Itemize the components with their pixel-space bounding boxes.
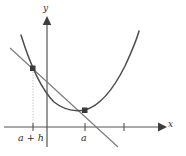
tick-label-a: a — [81, 133, 87, 143]
point-marker-a-plus-h — [30, 66, 36, 72]
x-axis-arrow-icon — [158, 123, 167, 132]
tick-label-a-plus-h: a + h — [18, 133, 44, 143]
y-axis-arrow-icon — [43, 16, 52, 25]
x-axis-label: x — [168, 120, 173, 129]
point-marker-a — [82, 108, 88, 114]
parabola-curve — [21, 31, 139, 111]
y-axis-label: y — [43, 4, 48, 13]
math-figure-parabola-secant: y x a + h a — [0, 0, 186, 156]
